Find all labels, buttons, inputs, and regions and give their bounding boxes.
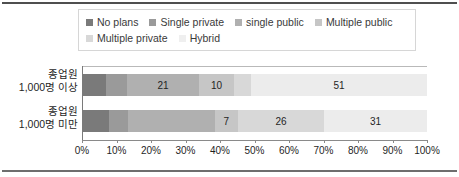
legend-swatch-icon: [179, 35, 186, 42]
legend-item-single-public[interactable]: single public: [235, 16, 304, 28]
category-label-1: 종업원 1,000명 미만: [4, 105, 78, 130]
x-axis-tick: [289, 140, 290, 143]
x-axis-tick-label: 0%: [75, 145, 89, 156]
x-axis-tick: [324, 140, 325, 143]
x-axis-tick-label: 10%: [106, 145, 126, 156]
bar-segment: 31: [324, 110, 427, 132]
x-axis-tick-label: 50%: [244, 145, 264, 156]
legend-item-single-private[interactable]: Single private: [149, 16, 224, 28]
legend-item-label: Single private: [160, 16, 224, 28]
bottom-rule: [2, 170, 457, 172]
bar-segment: [82, 74, 106, 96]
plot-area: 211051 72631: [82, 66, 427, 140]
bar-segment: [128, 110, 214, 132]
category-label-line2: 1,000명 이상: [4, 81, 78, 94]
x-axis-tick: [220, 140, 221, 143]
bar-segment: [82, 110, 109, 132]
bar-segment-value: 26: [275, 116, 286, 127]
x-axis-tick-label: 70%: [313, 145, 333, 156]
x-axis-tick: [393, 140, 394, 143]
plot-top-line: [82, 66, 427, 67]
bar-segment-value: 51: [333, 80, 344, 91]
legend-item-label: Multiple public: [326, 16, 393, 28]
x-axis-tick: [151, 140, 152, 143]
category-label-0: 종업원 1,000명 이상: [4, 68, 78, 93]
top-rule: [2, 2, 457, 4]
x-axis: 0%10%20%30%40%50%60%70%80%90%100%: [82, 140, 427, 141]
bar-segment-value: 7: [224, 116, 230, 127]
bar-segment: [234, 74, 251, 96]
bar-segment: 7: [215, 110, 238, 132]
legend-item-multiple-public[interactable]: Multiple public: [315, 16, 393, 28]
bar-segment: [106, 74, 127, 96]
x-axis-tick: [255, 140, 256, 143]
x-axis-tick-label: 80%: [348, 145, 368, 156]
legend-item-label: Multiple private: [97, 32, 168, 44]
legend-row: No plans Single private single public Mu…: [86, 14, 408, 30]
bar-row: 72631: [82, 110, 427, 132]
bar-segment: 21: [127, 74, 199, 96]
legend-item-hybrid[interactable]: Hybrid: [179, 32, 220, 44]
x-axis-tick-label: 30%: [175, 145, 195, 156]
chart-figure: No plans Single private single public Mu…: [0, 0, 459, 177]
legend-swatch-icon: [315, 19, 322, 26]
x-axis-tick-label: 60%: [279, 145, 299, 156]
legend-item-label: No plans: [97, 16, 138, 28]
chart-legend: No plans Single private single public Mu…: [78, 9, 416, 51]
bar-segment-value: 10: [211, 80, 222, 91]
category-label-line1: 종업원: [4, 68, 78, 81]
bar-segment: [109, 110, 129, 132]
x-axis-tick: [117, 140, 118, 143]
legend-swatch-icon: [86, 19, 93, 26]
x-axis-tick-label: 100%: [414, 145, 440, 156]
legend-item-no-plans[interactable]: No plans: [86, 16, 138, 28]
legend-item-label: Hybrid: [190, 32, 220, 44]
category-label-line2: 1,000명 미만: [4, 118, 78, 131]
bar-segment: 10: [199, 74, 234, 96]
x-axis-tick: [358, 140, 359, 143]
bar-segment: 26: [238, 110, 324, 132]
bar-segment-value: 31: [370, 116, 381, 127]
x-axis-tick-label: 20%: [141, 145, 161, 156]
x-axis-tick-label: 90%: [382, 145, 402, 156]
bar-row: 211051: [82, 74, 427, 96]
x-axis-tick-label: 40%: [210, 145, 230, 156]
legend-swatch-icon: [86, 35, 93, 42]
legend-swatch-icon: [235, 19, 242, 26]
bar-segment-value: 21: [157, 80, 168, 91]
legend-item-multiple-private[interactable]: Multiple private: [86, 32, 168, 44]
category-label-line1: 종업원: [4, 105, 78, 118]
bar-segment: 51: [251, 74, 427, 96]
x-axis-tick: [186, 140, 187, 143]
x-axis-tick: [427, 140, 428, 143]
legend-swatch-icon: [149, 19, 156, 26]
legend-row: Multiple private Hybrid: [86, 30, 408, 46]
x-axis-tick: [82, 140, 83, 143]
legend-item-label: single public: [246, 16, 304, 28]
